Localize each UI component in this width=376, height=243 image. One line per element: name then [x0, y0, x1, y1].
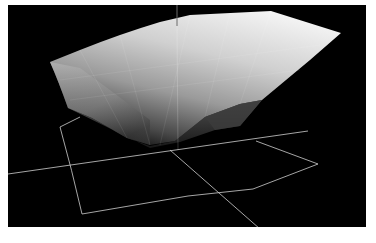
surface-mesh — [50, 11, 341, 148]
scene-canvas — [8, 5, 366, 227]
3d-viewport[interactable]: 3D surface render — [8, 5, 366, 227]
